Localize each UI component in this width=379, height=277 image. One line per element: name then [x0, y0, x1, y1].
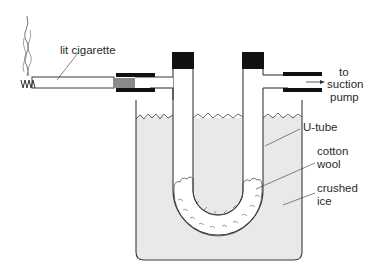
- ice-surface-middle: [193, 113, 243, 118]
- leader-cigarette: [57, 53, 78, 80]
- label-cotton: cotton: [317, 145, 348, 158]
- outlet-sleeve-top: [283, 72, 322, 76]
- outlet-tube: [263, 72, 325, 92]
- label-wool: wool: [317, 158, 341, 171]
- outlet-sleeve-bottom: [283, 88, 322, 92]
- apparatus-diagram: [0, 0, 379, 277]
- cigarette-filter: [113, 78, 135, 88]
- label-crushed: crushed: [317, 182, 358, 195]
- label-u-tube: U-tube: [303, 121, 338, 134]
- label-lit-cigarette: lit cigarette: [60, 44, 116, 57]
- label-suction: suction: [327, 78, 363, 91]
- connector-sleeve-top: [116, 73, 155, 77]
- label-pump: pump: [330, 91, 359, 104]
- connector-sleeve-bottom: [116, 88, 155, 92]
- left-stopper: [172, 52, 194, 69]
- cigarette-body: [32, 77, 114, 88]
- label-ice: ice: [317, 195, 332, 208]
- arrow-head-icon: [320, 80, 325, 84]
- right-stopper: [242, 52, 264, 69]
